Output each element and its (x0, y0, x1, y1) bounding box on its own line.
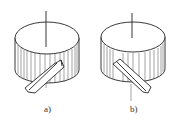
panel-a-drawing (15, 11, 79, 93)
cylinder-b-top-face (101, 22, 165, 52)
slot-b (113, 59, 151, 93)
cylinder-a-top-face (15, 22, 79, 54)
figure-canvas (0, 0, 176, 129)
panel-b-label: b) (130, 105, 138, 114)
panel-a-label: a) (44, 105, 51, 114)
panel-b-drawing (101, 13, 165, 101)
